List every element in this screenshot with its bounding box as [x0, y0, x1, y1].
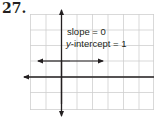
intercept-text: -intercept = 1 [71, 38, 127, 49]
slope-label: slope = 0 [67, 26, 106, 37]
intercept-label: y-intercept = 1 [66, 38, 126, 49]
coordinate-graph [0, 0, 154, 122]
